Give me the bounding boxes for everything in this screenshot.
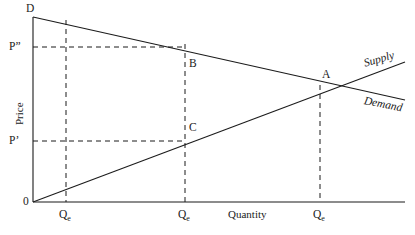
point-label-d: D <box>26 3 34 15</box>
quantity-tick-qe-3-subscript: e <box>321 214 325 223</box>
demand-curve <box>33 17 405 100</box>
quantity-tick-qe-3: Qe <box>313 209 325 221</box>
point-label-a: A <box>322 69 330 81</box>
supply-curve <box>33 62 405 202</box>
quantity-axis-title: Quantity <box>228 209 267 220</box>
figure-canvas: D B A C P” P’ 0 Price Qe Qe Qe Quantity … <box>0 0 415 235</box>
point-label-c: C <box>189 122 197 134</box>
price-tick-p-prime: P’ <box>9 135 19 147</box>
point-label-b: B <box>189 58 197 70</box>
price-tick-p-double-prime: P” <box>9 41 21 53</box>
supply-demand-chart <box>0 0 415 235</box>
origin-label: 0 <box>23 196 29 208</box>
quantity-tick-qe-1: Qe <box>59 209 71 221</box>
price-axis-title: Price <box>14 102 25 125</box>
quantity-tick-qe-2-subscript: e <box>186 214 190 223</box>
quantity-tick-qe-1-subscript: e <box>67 214 71 223</box>
quantity-tick-qe-2: Qe <box>178 209 190 221</box>
